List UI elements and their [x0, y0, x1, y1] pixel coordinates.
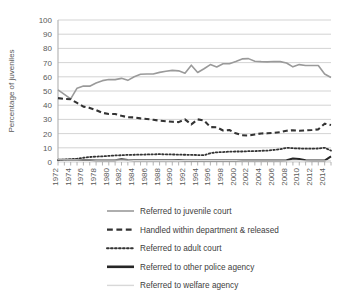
x-tick-label: 1992	[178, 167, 187, 185]
x-tick-label: 1990	[165, 167, 174, 185]
line-chart: 0102030405060708090100 19721974197619781…	[0, 0, 355, 299]
y-tick-label: 10	[43, 144, 52, 153]
x-tick-label: 1998	[216, 167, 225, 185]
x-tick-label: 1980	[102, 167, 111, 185]
x-tick-label: 1972	[51, 167, 60, 185]
x-tick-label: 1994	[191, 167, 200, 185]
y-tick-label: 30	[43, 115, 52, 124]
x-tick-label: 2002	[241, 167, 250, 185]
x-tick-label: 1996	[203, 167, 212, 185]
x-tick-label: 2006	[267, 167, 276, 185]
chart-container: 0102030405060708090100 19721974197619781…	[0, 0, 355, 299]
legend-label-0: Referred to juvenile court	[140, 207, 232, 216]
legend-label-2: Referred to adult court	[140, 244, 222, 253]
x-tick-label: 1984	[127, 167, 136, 185]
x-tick-label: 2000	[229, 167, 238, 185]
x-tick-label: 2014	[318, 167, 327, 185]
x-tick-label: 1988	[153, 167, 162, 185]
x-tick-label: 1986	[140, 167, 149, 185]
x-tick-label: 2004	[254, 167, 263, 185]
y-tick-label: 70	[43, 59, 52, 68]
legend-label-3: Referred to other police agency	[140, 263, 255, 272]
x-tick-label: 1974	[64, 167, 73, 185]
chart-background	[0, 0, 355, 299]
y-tick-label: 100	[39, 16, 53, 25]
y-tick-label: 40	[43, 101, 52, 110]
x-tick-label: 1976	[76, 167, 85, 185]
x-tick-label: 1978	[89, 167, 98, 185]
legend-label-1: Handled within department & released	[140, 226, 279, 235]
y-tick-label: 50	[43, 87, 52, 96]
y-tick-label: 20	[43, 130, 52, 139]
x-tick-label: 1982	[114, 167, 123, 185]
x-tick-label: 2012	[305, 167, 314, 185]
y-axis-label: Percentage of juveniles	[7, 49, 16, 132]
x-tick-label: 2010	[292, 167, 301, 185]
y-tick-label: 80	[43, 44, 52, 53]
y-tick-label: 0	[48, 158, 53, 167]
y-tick-label: 60	[43, 73, 52, 82]
y-tick-label: 90	[43, 30, 52, 39]
x-tick-label: 2008	[280, 167, 289, 185]
legend-label-4: Referred to welfare agency	[140, 281, 239, 290]
